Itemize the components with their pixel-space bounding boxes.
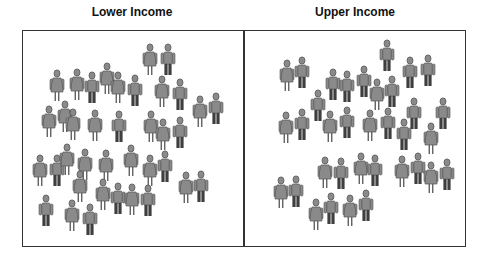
pants-figure-icon	[39, 195, 53, 226]
dress-figure-icon	[88, 110, 102, 141]
pants-figure-icon	[326, 69, 340, 100]
pants-figure-icon	[368, 155, 382, 186]
pants-figure-icon	[295, 109, 309, 140]
pants-figure-icon	[381, 108, 395, 139]
dress-figure-icon	[33, 155, 47, 186]
dress-figure-icon	[424, 162, 438, 193]
dress-figure-icon	[143, 155, 157, 186]
pants-figure-icon	[209, 93, 223, 124]
dress-figure-icon	[96, 179, 110, 210]
dress-figure-icon	[363, 110, 377, 141]
dress-figure-icon	[318, 157, 332, 188]
pants-figure-icon	[85, 72, 99, 103]
pants-figure-icon	[128, 75, 142, 106]
dress-figure-icon	[193, 96, 207, 127]
dress-figure-icon	[280, 60, 294, 91]
pants-figure-icon	[359, 190, 373, 221]
pants-figure-icon	[380, 40, 394, 71]
people-figures	[0, 0, 478, 261]
dress-figure-icon	[70, 69, 84, 100]
dress-figure-icon	[42, 106, 56, 137]
pants-figure-icon	[421, 55, 435, 86]
pants-figure-icon	[161, 44, 175, 75]
dress-figure-icon	[179, 172, 193, 203]
pants-figure-icon	[407, 98, 421, 129]
dress-figure-icon	[125, 184, 139, 215]
dress-figure-icon	[354, 153, 368, 184]
dress-figure-icon	[155, 76, 169, 107]
pants-figure-icon	[112, 111, 126, 142]
dress-figure-icon	[124, 145, 138, 176]
pants-figure-icon	[385, 76, 399, 107]
pants-figure-icon	[403, 57, 417, 88]
pants-figure-icon	[194, 171, 208, 202]
pants-figure-icon	[340, 71, 354, 102]
dress-figure-icon	[99, 150, 113, 181]
pants-figure-icon	[111, 183, 125, 214]
pants-figure-icon	[411, 153, 425, 184]
lower-income-people-group	[33, 44, 223, 235]
pants-figure-icon	[289, 176, 303, 207]
pants-figure-icon	[295, 57, 309, 88]
pants-figure-icon	[397, 119, 411, 150]
pants-figure-icon	[83, 204, 97, 235]
pants-figure-icon	[173, 79, 187, 110]
pants-figure-icon	[334, 158, 348, 189]
dress-figure-icon	[370, 79, 384, 110]
pants-figure-icon	[440, 159, 454, 190]
dress-figure-icon	[274, 177, 288, 208]
dress-figure-icon	[424, 123, 438, 154]
pants-figure-icon	[158, 151, 172, 182]
pants-figure-icon	[436, 98, 450, 129]
pants-figure-icon	[357, 66, 371, 97]
dress-figure-icon	[65, 200, 79, 231]
dress-figure-icon	[323, 111, 337, 142]
dress-figure-icon	[279, 112, 293, 143]
pants-figure-icon	[173, 117, 187, 148]
pants-figure-icon	[311, 90, 325, 121]
upper-income-people-group	[274, 40, 454, 230]
dress-figure-icon	[343, 195, 357, 226]
dress-figure-icon	[309, 199, 323, 230]
pants-figure-icon	[340, 107, 354, 138]
dress-figure-icon	[50, 70, 64, 101]
pants-figure-icon	[324, 193, 338, 224]
dress-figure-icon	[395, 156, 409, 187]
pants-figure-icon	[141, 185, 155, 216]
dress-figure-icon	[73, 171, 87, 202]
dress-figure-icon	[143, 44, 157, 75]
